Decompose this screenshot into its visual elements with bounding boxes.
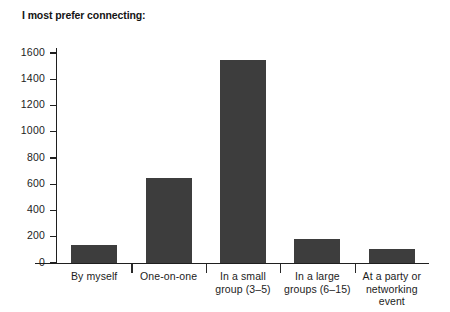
y-axis-tick-label: 800 bbox=[27, 151, 45, 163]
y-axis-tick-mark bbox=[50, 210, 57, 211]
y-axis-tick-label: 600 bbox=[27, 177, 45, 189]
y-axis-tick-label: 400 bbox=[27, 203, 45, 215]
y-axis-tick-label: 200 bbox=[27, 229, 45, 241]
y-axis-tick-mark bbox=[50, 131, 57, 132]
bar-chart: I most prefer connecting: 02004006008001… bbox=[0, 0, 450, 312]
y-axis-tick-label: 1200 bbox=[21, 98, 45, 110]
y-axis-tick-mark bbox=[50, 236, 57, 237]
y-axis-tick-label: 1600 bbox=[21, 46, 45, 58]
x-axis-label: At a party ornetworkingevent bbox=[355, 270, 429, 308]
x-axis-line bbox=[35, 263, 429, 264]
x-axis-label: In a largegroups (6–15) bbox=[280, 270, 354, 295]
plot-area bbox=[57, 53, 429, 263]
y-axis-tick-mark bbox=[50, 157, 57, 158]
y-axis-tick-label: 1000 bbox=[21, 124, 45, 136]
y-axis-tick-mark bbox=[50, 105, 57, 106]
x-axis-label: One-on-one bbox=[131, 270, 205, 283]
x-axis-label: In a smallgroup (3–5) bbox=[206, 270, 280, 295]
bar bbox=[294, 239, 340, 263]
y-axis-tick-mark bbox=[50, 262, 57, 263]
bar bbox=[220, 60, 266, 263]
bar bbox=[71, 245, 117, 263]
bar bbox=[146, 178, 192, 263]
bar bbox=[369, 249, 415, 263]
y-axis-tick-label: 0 bbox=[39, 256, 45, 268]
y-axis-tick-mark bbox=[50, 79, 57, 80]
y-axis-tick-label: 1400 bbox=[21, 72, 45, 84]
y-axis-tick-mark bbox=[50, 52, 57, 53]
x-axis-label: By myself bbox=[57, 270, 131, 283]
y-axis-tick-mark bbox=[50, 184, 57, 185]
chart-title: I most prefer connecting: bbox=[22, 9, 146, 21]
